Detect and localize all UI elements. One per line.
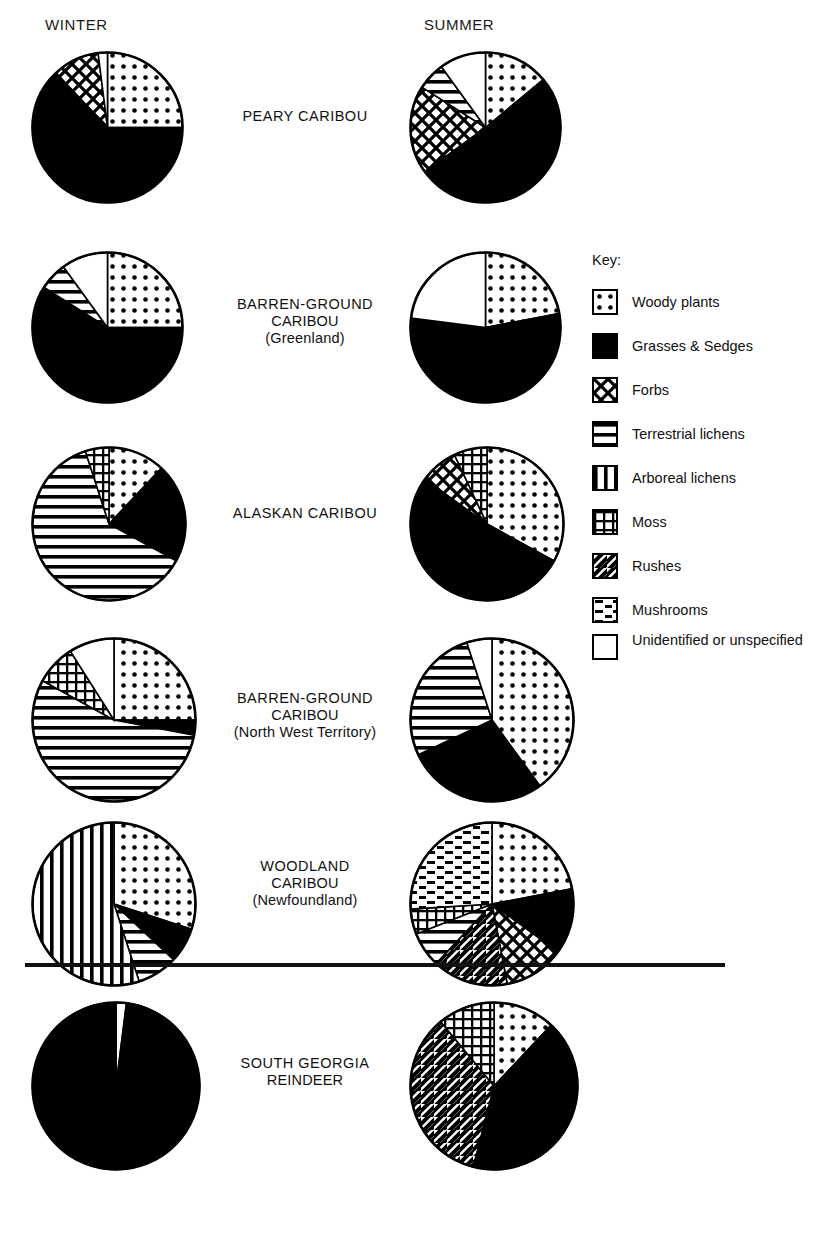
legend-item-woody: Woody plants	[592, 280, 824, 324]
legend-label: Woody plants	[632, 294, 720, 310]
legend-item-rushes: Rushes	[592, 544, 824, 588]
species-label: WOODLANDCARIBOU(Newfoundland)	[210, 858, 400, 909]
legend-item-unidentified: Unidentified or unspecified	[592, 632, 824, 686]
legend-label: Grasses & Sedges	[632, 338, 753, 354]
species-label-line: (North West Territory)	[210, 724, 400, 741]
legend-item-terr_lichens: Terrestrial lichens	[592, 412, 824, 456]
pie-chart	[30, 636, 198, 804]
pie-chart	[30, 1000, 202, 1172]
species-label-line: (Newfoundland)	[210, 892, 400, 909]
species-label-line: CARIBOU	[210, 313, 400, 330]
species-label-line: BARREN-GROUND	[210, 296, 400, 313]
legend-swatch-horizontal	[592, 421, 618, 447]
column-header-winter: WINTER	[45, 16, 108, 33]
pie-chart	[30, 445, 188, 603]
pie-chart	[30, 50, 185, 205]
legend-swatch-dots	[592, 289, 618, 315]
species-label: ALASKAN CARIBOU	[210, 505, 400, 522]
legend-item-mushrooms: Mushrooms	[592, 588, 824, 632]
pie-chart	[408, 250, 563, 405]
species-label-line: CARIBOU	[210, 875, 400, 892]
species-label: SOUTH GEORGIAREINDEER	[210, 1055, 400, 1089]
legend-item-forbs: Forbs	[592, 368, 824, 412]
caribou-diet-figure: WINTER SUMMER PEARY CARIBOUBARREN-GROUND…	[0, 0, 824, 1233]
species-label-line: PEARY CARIBOU	[210, 108, 400, 125]
legend-swatch-blank	[592, 634, 618, 660]
pie-summer-2	[408, 445, 566, 607]
column-header-summer: SUMMER	[424, 16, 494, 33]
section-divider	[25, 963, 725, 967]
pie-winter-3	[30, 636, 198, 808]
pie-summer-3	[408, 636, 576, 808]
legend-label: Arboreal lichens	[632, 470, 736, 486]
legend-item-moss: Moss	[592, 500, 824, 544]
legend-swatch-solid	[592, 333, 618, 359]
legend-title: Key:	[592, 252, 824, 268]
legend-key: Key: Woody plantsGrasses & SedgesForbsTe…	[592, 252, 824, 686]
pie-slice	[411, 823, 493, 910]
species-label-line: ALASKAN CARIBOU	[210, 505, 400, 522]
species-label-line: CARIBOU	[210, 707, 400, 724]
legend-label: Mushrooms	[632, 602, 708, 618]
legend-swatch-vertical	[592, 465, 618, 491]
species-label-line: WOODLAND	[210, 858, 400, 875]
pie-chart	[408, 1000, 580, 1172]
species-label-line: REINDEER	[210, 1072, 400, 1089]
legend-swatch-grid	[592, 509, 618, 535]
legend-swatch-diagonal	[592, 553, 618, 579]
pie-chart	[408, 50, 563, 205]
pie-summer-1	[408, 250, 563, 409]
pie-winter-5	[30, 1000, 202, 1176]
legend-label: Moss	[632, 514, 667, 530]
legend-label: Forbs	[632, 382, 669, 398]
species-label: PEARY CARIBOU	[210, 108, 400, 125]
pie-chart	[30, 250, 185, 405]
legend-item-arb_lichens: Arboreal lichens	[592, 456, 824, 500]
pie-summer-5	[408, 1000, 580, 1176]
species-label: BARREN-GROUNDCARIBOU(North West Territor…	[210, 690, 400, 741]
species-label-line: BARREN-GROUND	[210, 690, 400, 707]
pie-chart	[408, 445, 566, 603]
species-label-line: (Greenland)	[210, 330, 400, 347]
species-label: BARREN-GROUNDCARIBOU(Greenland)	[210, 296, 400, 347]
pie-winter-0	[30, 50, 185, 209]
pie-chart	[408, 636, 576, 804]
pie-winter-1	[30, 250, 185, 409]
legend-swatch-dashes	[592, 597, 618, 623]
legend-swatch-crosshatch	[592, 377, 618, 403]
legend-item-grasses: Grasses & Sedges	[592, 324, 824, 368]
pie-summer-0	[408, 50, 563, 209]
legend-label: Unidentified or unspecified	[632, 632, 803, 648]
legend-label: Terrestrial lichens	[632, 426, 745, 442]
species-label-line: SOUTH GEORGIA	[210, 1055, 400, 1072]
legend-items: Woody plantsGrasses & SedgesForbsTerrest…	[592, 280, 824, 686]
legend-label: Rushes	[632, 558, 681, 574]
pie-winter-2	[30, 445, 188, 607]
